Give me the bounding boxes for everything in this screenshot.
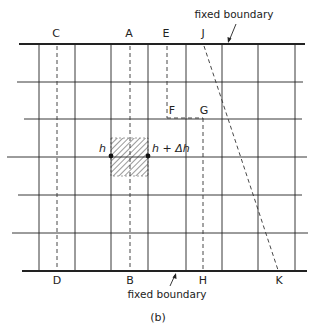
node-h [109,154,114,159]
label-d: D [53,274,61,287]
label-h: H [199,274,207,287]
node-label-h: h [99,142,106,155]
label-k: K [275,274,283,287]
label-b: B [126,274,134,287]
section-lines [57,46,278,270]
label-f: F [169,104,175,117]
label-g: G [200,104,209,117]
label-j: J [200,27,204,40]
bottom-boundary-label: fixed boundary [128,288,207,300]
label-c: C [52,27,60,40]
flow-net-diagram: C A E J F G D B H K h h + Δh fixed bound… [0,0,314,330]
label-a: A [125,27,133,40]
top-boundary-label: fixed boundary [195,8,274,20]
figure-caption: (b) [150,311,166,324]
section-line-jk [204,46,278,270]
label-e: E [163,27,170,40]
top-boundary-arrowhead [228,37,232,43]
vertical-grid-lines [39,44,295,271]
node-label-h-plus-dh: h + Δh [152,142,190,155]
node-h-plus-dh [146,154,151,159]
horizontal-grid-lines [7,82,308,233]
